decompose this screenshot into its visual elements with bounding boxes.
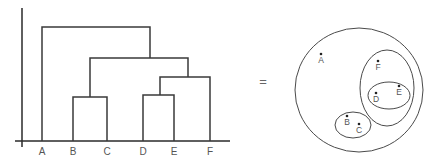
merge-def [160, 77, 210, 141]
hierarchical-clustering-figure: A B C D E F = A B C D E F [0, 0, 435, 162]
dendrogram: A B C D E F [15, 8, 230, 157]
point-label-d: D [373, 94, 379, 104]
leaf-label-d: D [139, 146, 146, 157]
leaf-label-a: A [39, 146, 46, 157]
merge-root [42, 27, 150, 141]
point-label-a: A [318, 55, 324, 65]
point-label-c: C [356, 125, 362, 135]
equals-sign: = [259, 74, 267, 89]
leaf-label-b: B [70, 146, 77, 157]
cluster-bc-ellipse [335, 112, 371, 138]
leaf-label-c: C [103, 146, 110, 157]
nested-clusters-diagram: A B C D E F [295, 28, 423, 152]
leaf-label-e: E [171, 146, 178, 157]
point-label-e: E [396, 87, 402, 97]
merge-bc [73, 97, 107, 141]
point-label-f: F [375, 62, 380, 72]
point-label-b: B [344, 117, 350, 127]
leaf-label-f: F [207, 146, 213, 157]
merge-de [143, 95, 174, 141]
